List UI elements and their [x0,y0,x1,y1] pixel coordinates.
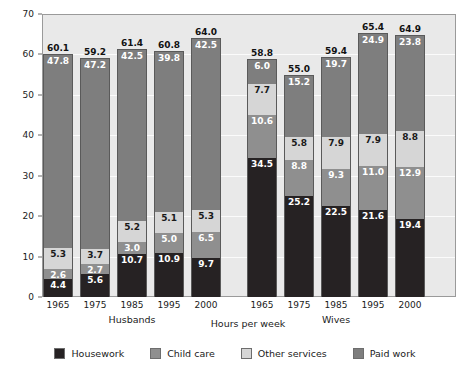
bar-wives-1985[interactable]: 22.59.37.919.759.4 [321,57,351,297]
bar-segment-child-care[interactable]: 3.0 [118,242,146,254]
bar-segment-housework[interactable]: 21.6 [359,210,387,297]
legend-label: Paid work [370,348,416,359]
segment-value-label: 2.7 [87,264,103,275]
bar-husbands-1995[interactable]: 10.95.05.139.860.8 [154,51,184,297]
segment-value-label: 6.5 [198,232,214,243]
segment-value-label: 39.8 [158,52,180,63]
bar-husbands-1975[interactable]: 5.62.73.747.259.2 [80,58,110,297]
bar-total-label: 58.8 [251,49,273,60]
bar-segment-other-services[interactable]: 5.3 [44,248,72,269]
bar-husbands-1985[interactable]: 10.73.05.242.561.4 [117,49,147,297]
y-axis-tick-mark [38,94,42,95]
bar-segment-other-services[interactable]: 7.9 [359,134,387,166]
bar-segment-housework[interactable]: 25.2 [285,196,313,297]
bar-segment-paid-work[interactable]: 47.8 [44,55,72,247]
bar-segment-child-care[interactable]: 9.3 [322,169,350,206]
bar-segment-paid-work[interactable]: 23.8 [396,36,424,132]
bar-segment-other-services[interactable]: 7.7 [248,84,276,115]
segment-value-label: 2.6 [50,269,66,279]
bar-segment-housework[interactable]: 19.4 [396,219,424,297]
bar-segment-child-care[interactable]: 5.0 [155,233,183,253]
bar-segment-paid-work[interactable]: 42.5 [118,50,146,221]
segment-value-label: 11.0 [362,166,384,177]
bar-segment-housework[interactable]: 10.7 [118,254,146,297]
y-axis-tick-mark [38,256,42,257]
bar-segment-child-care[interactable]: 6.5 [192,232,220,258]
bar-segment-child-care[interactable]: 11.0 [359,166,387,210]
bar-segment-housework[interactable]: 34.5 [248,158,276,297]
segment-value-label: 5.3 [198,210,214,221]
bar-segment-housework[interactable]: 22.5 [322,206,350,297]
x-axis-tick-label: 1965 [47,300,70,310]
x-axis-tick-label: 2000 [195,300,218,310]
segment-value-label: 5.1 [161,212,177,223]
bar-segment-child-care[interactable]: 2.7 [81,264,109,275]
bar-segment-paid-work[interactable]: 15.2 [285,76,313,137]
bar-segment-child-care[interactable]: 8.8 [285,160,313,195]
legend-item[interactable]: Child care [150,348,215,359]
bar-segment-paid-work[interactable]: 19.7 [322,58,350,137]
bar-wives-2000[interactable]: 19.412.98.823.864.9 [395,35,425,297]
legend-swatch-other-services [241,348,252,359]
bar-segment-paid-work[interactable]: 6.0 [248,60,276,84]
bar-segment-other-services[interactable]: 3.7 [81,249,109,264]
bar-segment-housework[interactable]: 9.7 [192,258,220,297]
segment-value-label: 5.6 [87,274,103,285]
segment-value-label: 7.9 [365,134,381,145]
segment-value-label: 47.2 [84,59,106,70]
legend-label: Other services [258,348,327,359]
bar-segment-other-services[interactable]: 7.9 [322,137,350,169]
bar-wives-1995[interactable]: 21.611.07.924.965.4 [358,33,388,297]
legend-swatch-housework [54,348,65,359]
bar-husbands-1965[interactable]: 4.42.65.347.860.1 [43,54,73,297]
bar-total-label: 64.0 [195,28,217,39]
bar-segment-child-care[interactable]: 10.6 [248,115,276,158]
bar-segment-housework[interactable]: 10.9 [155,253,183,297]
segment-value-label: 9.7 [198,258,214,269]
legend-item[interactable]: Other services [241,348,327,359]
y-axis-tick-label: 0 [8,292,34,302]
bar-segment-other-services[interactable]: 8.8 [396,131,424,166]
x-axis-group-label: Wives [322,314,350,325]
segment-value-label: 25.2 [288,196,310,207]
bar-segment-paid-work[interactable]: 24.9 [359,34,387,134]
segment-value-label: 3.0 [124,242,140,253]
bar-segment-paid-work[interactable]: 47.2 [81,59,109,249]
bar-husbands-2000[interactable]: 9.76.55.342.564.0 [191,38,221,297]
x-axis-tick-label: 1965 [251,300,274,310]
bar-segment-other-services[interactable]: 5.1 [155,212,183,233]
bar-segment-other-services[interactable]: 5.8 [285,137,313,160]
x-axis-tick-label: 2000 [399,300,422,310]
bar-total-label: 59.2 [84,48,106,59]
segment-value-label: 6.0 [254,60,270,71]
segment-value-label: 34.5 [251,158,273,169]
segment-value-label: 10.9 [158,253,180,264]
x-axis-tick-label: 1975 [84,300,107,310]
x-axis-title: Hours per week [211,318,286,329]
bar-segment-housework[interactable]: 5.6 [81,274,109,297]
y-axis-tick-mark [38,135,42,136]
bar-wives-1975[interactable]: 25.28.85.815.255.0 [284,75,314,297]
bar-segment-housework[interactable]: 4.4 [44,279,72,297]
segment-value-label: 19.7 [325,58,347,69]
x-axis-tick-label: 1995 [158,300,181,310]
segment-value-label: 47.8 [47,55,69,66]
bar-segment-child-care[interactable]: 2.6 [44,269,72,279]
legend-label: Child care [167,348,215,359]
bar-total-label: 61.4 [121,39,143,50]
legend-item[interactable]: Paid work [353,348,416,359]
bar-segment-other-services[interactable]: 5.3 [192,210,220,231]
segment-value-label: 5.2 [124,221,140,232]
y-axis-tick-mark [38,216,42,217]
bar-segment-child-care[interactable]: 12.9 [396,167,424,219]
bar-wives-1965[interactable]: 34.510.67.76.058.8 [247,59,277,297]
bar-segment-paid-work[interactable]: 42.5 [192,39,220,210]
x-axis-tick-label: 1985 [325,300,348,310]
bar-segment-paid-work[interactable]: 39.8 [155,52,183,212]
bar-segment-other-services[interactable]: 5.2 [118,221,146,242]
segment-value-label: 5.8 [291,137,307,148]
segment-value-label: 7.7 [254,84,270,95]
segment-value-label: 21.6 [362,210,384,221]
legend-swatch-paid-work [353,348,364,359]
legend-item[interactable]: Housework [54,348,124,359]
